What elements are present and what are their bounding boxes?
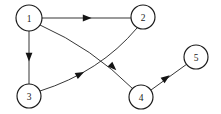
node-circle-2 <box>131 5 155 29</box>
graph-node-3: 3 <box>17 84 41 108</box>
arrowhead-1-to-3 <box>26 53 33 62</box>
graph-edge-4-to-5 <box>151 64 187 90</box>
graph-node-4: 4 <box>129 85 153 109</box>
graph-node-2: 2 <box>131 5 155 29</box>
node-circle-5 <box>184 45 208 69</box>
node-circle-4 <box>129 85 153 109</box>
node-circle-1 <box>16 5 42 31</box>
graph-edge-1-to-4 <box>40 25 133 89</box>
arrowhead-1-to-2 <box>83 15 92 22</box>
directed-graph-figure: 12345 <box>0 0 221 114</box>
node-circle-3 <box>17 84 41 108</box>
graph-node-5: 5 <box>184 45 208 69</box>
nodes-layer: 12345 <box>16 5 208 109</box>
graph-canvas: 12345 <box>0 0 221 114</box>
arrowhead-3-to-2 <box>75 69 86 79</box>
graph-edge-3-to-2 <box>40 28 137 91</box>
graph-node-1: 1 <box>16 5 42 31</box>
